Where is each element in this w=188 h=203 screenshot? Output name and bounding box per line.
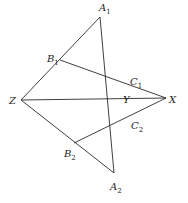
point-label-c2: C2 [131,120,143,134]
point-label-y: Y [123,94,131,105]
point-label-x: X [168,94,177,105]
perspective-triangles-diagram: A1B1C1A2B2C2ZYX [0,0,188,203]
segment-z-x [21,98,166,100]
segment-z-a2 [21,100,114,173]
segment-a1-a2 [100,17,114,173]
segment-b1-x [60,60,166,98]
diagram-segments [21,17,166,173]
point-label-a1: A1 [98,2,111,16]
segment-z-a1 [21,17,100,100]
point-label-a2: A2 [109,181,122,195]
point-label-b1: B1 [46,53,59,67]
point-label-z: Z [8,95,17,106]
segment-b2-x [74,98,166,143]
point-label-b2: B2 [63,148,76,162]
